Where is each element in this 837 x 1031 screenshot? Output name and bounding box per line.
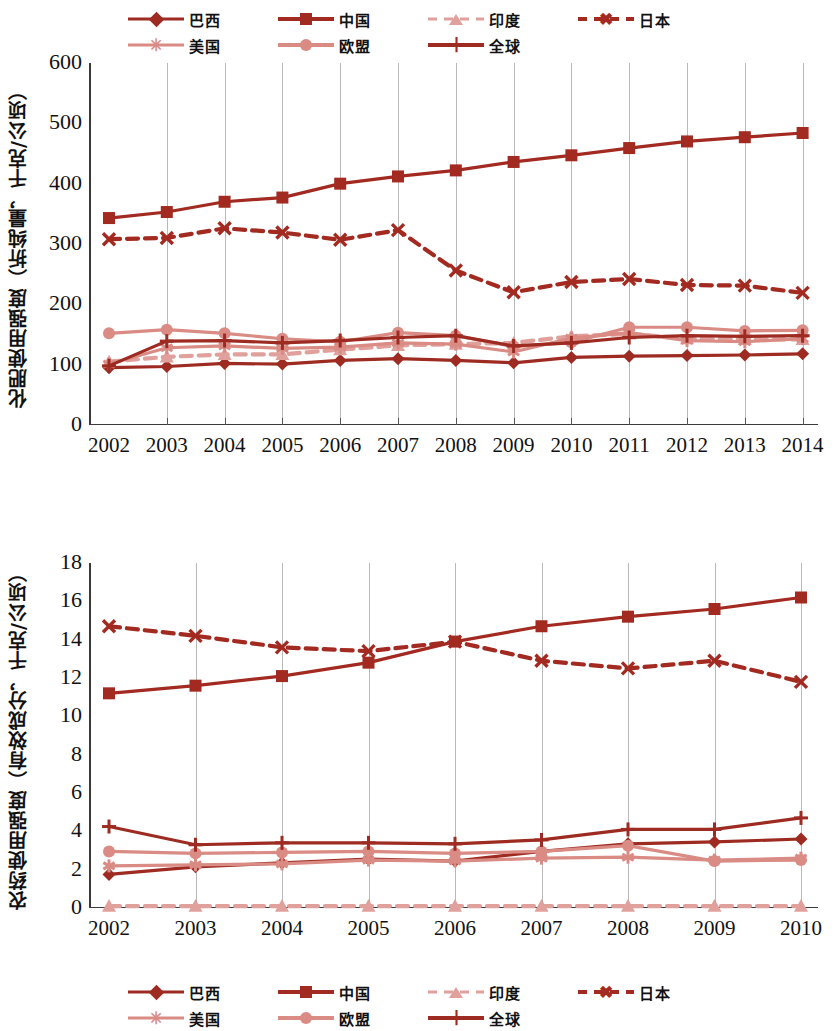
legend-item-欧盟[interactable]: 欧盟 — [278, 1005, 428, 1031]
legend-label: 巴西 — [189, 982, 220, 1003]
series-日本 — [103, 620, 807, 688]
data-point-marker-diamond — [449, 354, 462, 367]
legend-item-巴西[interactable]: 巴西 — [128, 979, 278, 1005]
legend-label: 印度 — [489, 982, 520, 1003]
data-point-marker-square — [797, 127, 809, 139]
x-tick-label: 2003 — [175, 916, 217, 941]
data-point-marker-square — [363, 657, 375, 669]
legend-swatch: ✖ — [578, 10, 634, 28]
legend-label: 欧盟 — [339, 35, 370, 56]
y-tick-label: 10 — [60, 703, 82, 729]
legend-marker-plus: ＋ — [447, 1009, 466, 1028]
x-tick-label: 2004 — [261, 916, 303, 941]
legend-marker-plus: ＋ — [447, 36, 466, 55]
data-point-marker-square — [190, 680, 202, 692]
x-tick-label: 2013 — [724, 433, 766, 458]
legend-label: 全球 — [489, 35, 520, 56]
x-tick-label: 2002 — [88, 916, 130, 941]
data-point-marker-plus — [794, 811, 808, 825]
data-point-marker-circle — [103, 327, 115, 339]
legend-item-巴西[interactable]: 巴西 — [128, 6, 278, 32]
data-point-marker-square — [508, 156, 520, 168]
data-point-marker-diamond — [795, 833, 808, 846]
data-point-marker-plus — [708, 822, 722, 836]
y-tick-label: 100 — [49, 351, 82, 377]
x-tick-label: 2003 — [146, 433, 188, 458]
legend-item-全球[interactable]: ＋全球 — [428, 1005, 578, 1031]
x-tick-label: 2008 — [607, 916, 649, 941]
legend-item-印度[interactable]: 印度 — [428, 979, 578, 1005]
legend-swatch — [278, 36, 334, 54]
legend-marker-square — [300, 13, 312, 25]
data-point-marker-square — [103, 687, 115, 699]
legend-row: 巴西中国印度✖日本 — [128, 6, 828, 32]
legend-marker-diamond — [148, 11, 164, 27]
x-tick-label: 2010 — [550, 433, 592, 458]
x-tick-label: 2014 — [782, 433, 824, 458]
legend-swatch — [278, 983, 334, 1001]
y-axis-label-pesticide: 农药使用强度（有效成分，千克/公顷） — [4, 560, 31, 910]
legend-item-日本[interactable]: ✖日本 — [578, 6, 728, 32]
data-point-marker-diamond — [392, 352, 405, 365]
legend-swatch: ✖ — [578, 983, 634, 1001]
data-point-marker-square — [623, 142, 635, 154]
legend-label: 日本 — [639, 9, 670, 30]
data-point-marker-plus — [448, 837, 462, 851]
legend-marker-diamond — [148, 984, 164, 1000]
data-point-marker-square — [681, 135, 693, 147]
y-tick-label: 4 — [71, 818, 82, 844]
data-point-marker-square — [276, 192, 288, 204]
legend-label: 日本 — [639, 982, 670, 1003]
plot-area-pesticide: 0246810121416182002200320042005200620072… — [89, 563, 818, 908]
legend-item-全球[interactable]: ＋全球 — [428, 32, 578, 58]
data-point-marker-circle — [161, 324, 173, 336]
y-tick-label: 12 — [60, 664, 82, 690]
legend-item-美国[interactable]: ✳美国 — [128, 1005, 278, 1031]
legend-marker-x: ✖ — [599, 984, 613, 1001]
legend-swatch: ＋ — [428, 36, 484, 54]
y-tick-label: 0 — [71, 894, 82, 920]
y-axis-label-fertilizer: 化肥使用强度（折纯量，千克/公顷） — [4, 78, 31, 408]
legend-item-美国[interactable]: ✳美国 — [128, 32, 278, 58]
data-point-marker-diamond — [738, 349, 751, 362]
legend-swatch — [128, 983, 184, 1001]
legend-item-印度[interactable]: 印度 — [428, 6, 578, 32]
y-tick-label: 500 — [49, 110, 82, 136]
y-tick-label: 0 — [71, 411, 82, 437]
legend-marker-square — [300, 986, 312, 998]
y-tick-label: 6 — [71, 779, 82, 805]
legend-label: 中国 — [339, 9, 370, 30]
x-tick-label: 2007 — [377, 433, 419, 458]
series-中国 — [103, 127, 809, 224]
x-tick-label: 2012 — [666, 433, 708, 458]
legend-marker-x: ✖ — [599, 11, 613, 28]
data-point-marker-square — [739, 131, 751, 143]
data-point-marker-square — [795, 592, 807, 604]
data-point-marker-circle — [795, 854, 807, 866]
data-point-marker-diamond — [623, 350, 636, 363]
series-line — [109, 626, 801, 682]
data-point-marker-diamond — [565, 351, 578, 364]
data-point-marker-square — [334, 178, 346, 190]
data-point-marker-square — [276, 670, 288, 682]
x-tick-label: 2005 — [261, 433, 303, 458]
legend-item-中国[interactable]: 中国 — [278, 979, 428, 1005]
x-tick-label: 2002 — [88, 433, 130, 458]
data-point-marker-square — [622, 611, 634, 623]
x-tick-label: 2011 — [609, 433, 650, 458]
y-tick-label: 200 — [49, 291, 82, 317]
legend-row: ✳美国欧盟＋全球 — [128, 32, 828, 58]
legend-marker-star: ✳ — [149, 37, 163, 54]
data-point-marker-plus — [535, 833, 549, 847]
x-tick-label: 2005 — [348, 916, 390, 941]
legend-item-欧盟[interactable]: 欧盟 — [278, 32, 428, 58]
legend-label: 美国 — [189, 1008, 220, 1029]
legend-item-日本[interactable]: ✖日本 — [578, 979, 728, 1005]
legend-item-中国[interactable]: 中国 — [278, 6, 428, 32]
data-point-marker-plus — [102, 820, 116, 834]
plot-area-fertilizer: 0100200300400500600200220032004200520062… — [89, 63, 818, 425]
legend-fertilizer: 巴西中国印度✖日本✳美国欧盟＋全球 — [128, 6, 828, 58]
data-point-marker-square — [536, 620, 548, 632]
x-tick-label: 2006 — [319, 433, 361, 458]
